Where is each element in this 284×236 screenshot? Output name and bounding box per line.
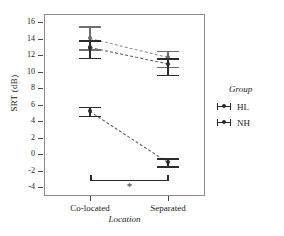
legend-label-hl: HL bbox=[237, 102, 249, 112]
legend-title: Group bbox=[229, 84, 282, 94]
y-tick-6 bbox=[38, 105, 43, 106]
y-tick-label-16: 16 bbox=[27, 18, 35, 26]
y-tick-label-8: 8 bbox=[31, 84, 35, 92]
chart-figure: 16 14 12 10 8 6 4 2 0 -2 -4 SRT (dB) Co-… bbox=[0, 0, 284, 236]
y-axis-title: SRT (dB) bbox=[9, 53, 19, 133]
y-tick-label-4: 4 bbox=[31, 117, 35, 125]
y-tick-2 bbox=[38, 138, 43, 139]
y-tick-label-6: 6 bbox=[31, 101, 35, 109]
errorbar-nh-separated bbox=[167, 58, 169, 75]
errorbar-cap-upper-nh-separated bbox=[157, 58, 179, 60]
y-tick-label-14: 14 bbox=[27, 35, 35, 43]
y-tick-minus2 bbox=[38, 171, 43, 172]
x-tick-label-separated: Separated bbox=[128, 203, 208, 213]
x-tick-label-co-located: Co-located bbox=[50, 203, 130, 213]
significance-bracket-right-tick bbox=[167, 175, 169, 180]
errorbar-cap-upper-hl-co-located bbox=[79, 26, 101, 28]
y-tick-4 bbox=[38, 121, 43, 122]
legend-item-hl: HL bbox=[216, 100, 282, 113]
y-tick-label-2: 2 bbox=[31, 134, 35, 142]
y-tick-label-0: 0 bbox=[31, 150, 35, 158]
errorbar-cap-lower-nh-lower-co-located bbox=[79, 116, 101, 118]
errorbar-nh-co-located bbox=[89, 40, 91, 59]
y-tick-16 bbox=[38, 22, 43, 23]
y-tick-12 bbox=[38, 55, 43, 56]
data-point-nh-co-located bbox=[88, 45, 92, 49]
significance-bracket-left-tick bbox=[90, 175, 92, 180]
legend-key-hl-icon bbox=[216, 102, 232, 111]
plot-panel bbox=[44, 14, 205, 196]
x-tick-co-located bbox=[90, 196, 91, 201]
y-tick-14 bbox=[38, 39, 43, 40]
x-tick-separated bbox=[168, 196, 169, 201]
significance-asterisk: * bbox=[122, 181, 138, 192]
legend-item-nh: NH bbox=[216, 116, 282, 129]
y-tick-8 bbox=[38, 88, 43, 89]
y-tick-label-minus4: -4 bbox=[28, 183, 35, 191]
legend-key-nh-icon bbox=[216, 118, 232, 127]
errorbar-cap-upper-hl-separated bbox=[157, 51, 179, 53]
legend-label-nh: NH bbox=[237, 118, 250, 128]
errorbar-cap-upper-nh-lower-co-located bbox=[79, 107, 101, 109]
errorbar-cap-lower-nh-separated bbox=[157, 75, 179, 77]
y-tick-label-minus2: -2 bbox=[28, 167, 35, 175]
y-tick-label-10: 10 bbox=[27, 68, 35, 76]
y-tick-0 bbox=[38, 154, 43, 155]
y-tick-10 bbox=[38, 72, 43, 73]
y-tick-label-12: 12 bbox=[27, 51, 35, 59]
errorbar-cap-upper-nh-co-located bbox=[79, 40, 101, 42]
legend: Group HL NH bbox=[216, 84, 282, 132]
errorbar-cap-lower-nh-lower-separated bbox=[157, 166, 179, 168]
errorbar-cap-lower-nh-co-located bbox=[79, 58, 101, 60]
y-tick-minus4 bbox=[38, 187, 43, 188]
x-axis-title: Location bbox=[44, 214, 205, 224]
